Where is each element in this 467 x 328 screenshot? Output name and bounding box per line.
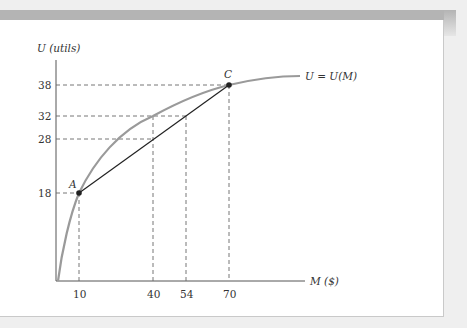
- point-a-label: A: [68, 178, 77, 190]
- utility-chart: U (utils) M ($) U = U(M) A C 38 32 28 18…: [0, 0, 467, 328]
- y-tick-32: 32: [38, 110, 51, 122]
- y-axis-label: U (utils): [37, 42, 80, 54]
- y-tick-28: 28: [38, 133, 51, 145]
- y-tick-38: 38: [38, 79, 51, 91]
- point-c: [226, 82, 232, 88]
- point-c-label: C: [224, 68, 232, 80]
- x-tick-70: 70: [223, 288, 236, 300]
- y-tick-18: 18: [38, 187, 51, 199]
- point-a: [76, 190, 82, 196]
- reference-lines: [56, 85, 229, 281]
- utility-curve: [58, 76, 300, 281]
- x-tick-54: 54: [180, 288, 194, 300]
- curve-label: U = U(M): [305, 70, 357, 82]
- x-tick-40: 40: [147, 288, 160, 300]
- x-tick-10: 10: [73, 288, 86, 300]
- x-axis-label: M ($): [309, 275, 339, 287]
